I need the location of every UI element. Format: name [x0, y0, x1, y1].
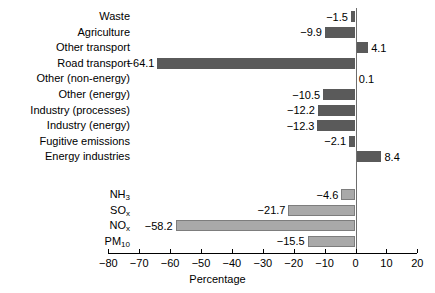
- x-tick-7: [325, 249, 326, 253]
- value-label-sectors-8: −2.1: [324, 135, 346, 147]
- value-label-sectors-7: −12.3: [287, 120, 315, 132]
- category-label-sectors-8: Fugitive emissions: [0, 135, 130, 147]
- category-label-sectors-5: Other (energy): [0, 88, 130, 100]
- bar-sectors-3: [157, 58, 355, 69]
- x-tick-label-3: −50: [192, 257, 211, 269]
- x-tick-0: [108, 249, 109, 253]
- bar-sectors-7: [317, 120, 355, 131]
- value-label-sectors-6: −12.2: [287, 104, 315, 116]
- category-label-text: Other (energy): [58, 88, 130, 100]
- category-label-text: NOx: [110, 219, 131, 235]
- category-label-pollutants-3: PM10: [0, 235, 130, 247]
- value-label-sectors-1: −9.9: [300, 26, 322, 38]
- plot-area: Waste−1.5Agriculture−9.9Other transport4…: [0, 0, 435, 293]
- bar-sectors-6: [318, 105, 356, 116]
- x-tick-label-4: −40: [223, 257, 242, 269]
- value-label-pollutants-1: −21.7: [258, 204, 286, 216]
- category-label-sectors-7: Industry (energy): [0, 119, 130, 131]
- bar-pollutants-3: [308, 236, 356, 247]
- value-label-pollutants-2: −58.2: [145, 220, 173, 232]
- category-label-sectors-0: Waste: [0, 10, 130, 22]
- x-tick-label-5: −30: [253, 257, 272, 269]
- category-label-text: SOx: [110, 204, 130, 220]
- zero-reference-line: [356, 8, 357, 253]
- x-tick-6: [294, 249, 295, 253]
- category-label-text: Fugitive emissions: [40, 135, 130, 147]
- category-label-text: Agriculture: [77, 26, 130, 38]
- category-label-sectors-6: Industry (processes): [0, 104, 130, 116]
- bar-sectors-2: [356, 42, 369, 53]
- x-tick-label-6: −20: [284, 257, 303, 269]
- category-label-text: Other (non-energy): [36, 72, 130, 84]
- value-label-pollutants-3: −15.5: [277, 235, 305, 247]
- x-tick-3: [201, 249, 202, 253]
- value-label-sectors-2: 4.1: [371, 42, 386, 54]
- category-label-sectors-1: Agriculture: [0, 26, 130, 38]
- category-label-sectors-2: Other transport: [0, 41, 130, 53]
- x-tick-label-9: 10: [380, 257, 392, 269]
- category-label-text: Industry (energy): [47, 119, 130, 131]
- bar-pollutants-1: [288, 205, 355, 216]
- category-label-text: Energy industries: [45, 150, 130, 162]
- x-tick-10: [417, 249, 418, 253]
- x-tick-1: [139, 249, 140, 253]
- emissions-change-bar-chart: Waste−1.5Agriculture−9.9Other transport4…: [0, 0, 435, 293]
- category-label-pollutants-2: NOx: [0, 219, 130, 231]
- value-label-sectors-0: −1.5: [326, 11, 348, 23]
- x-tick-2: [170, 249, 171, 253]
- value-label-pollutants-0: −4.6: [317, 189, 339, 201]
- x-tick-label-10: 20: [411, 257, 423, 269]
- x-tick-label-0: −80: [99, 257, 118, 269]
- bar-sectors-1: [325, 27, 356, 38]
- bar-pollutants-2: [176, 220, 356, 231]
- bar-pollutants-0: [341, 189, 355, 200]
- x-tick-9: [386, 249, 387, 253]
- category-label-text: Road transport: [57, 57, 130, 69]
- x-tick-4: [232, 249, 233, 253]
- value-label-sectors-4: 0.1: [359, 73, 374, 85]
- x-tick-label-2: −60: [161, 257, 180, 269]
- category-label-text: NH3: [110, 188, 130, 204]
- x-tick-8: [356, 249, 357, 253]
- x-tick-label-7: −10: [315, 257, 334, 269]
- x-axis-title: Percentage: [0, 273, 435, 285]
- bar-sectors-5: [323, 89, 355, 100]
- bar-sectors-8: [349, 136, 355, 147]
- x-tick-5: [263, 249, 264, 253]
- category-label-pollutants-1: SOx: [0, 204, 130, 216]
- value-label-sectors-9: 8.4: [384, 151, 399, 163]
- category-label-text: Other transport: [56, 41, 130, 53]
- x-tick-label-8: 0: [352, 257, 358, 269]
- x-axis-line: [108, 253, 417, 254]
- category-label-text: Waste: [99, 10, 130, 22]
- category-label-sectors-4: Other (non-energy): [0, 72, 130, 84]
- category-label-sectors-9: Energy industries: [0, 150, 130, 162]
- bar-sectors-9: [356, 151, 382, 162]
- x-tick-label-1: −70: [130, 257, 149, 269]
- category-label-text: Industry (processes): [30, 104, 130, 116]
- category-label-sectors-3: Road transport: [0, 57, 130, 69]
- value-label-sectors-3: −64.1: [127, 57, 155, 69]
- value-label-sectors-5: −10.5: [292, 89, 320, 101]
- category-label-pollutants-0: NH3: [0, 188, 130, 200]
